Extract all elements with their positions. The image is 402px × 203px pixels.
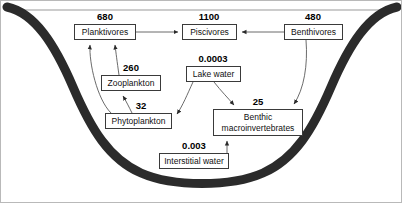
node-benthic-macroinvertebrates-label-line2: macroinvertebrates — [222, 123, 295, 134]
value-benthivores: 480 — [305, 11, 321, 22]
node-zooplankton[interactable]: Zooplankton — [101, 75, 161, 91]
value-interstitial-water: 0.003 — [182, 140, 206, 151]
node-phytoplankton[interactable]: Phytoplankton — [105, 113, 172, 129]
node-piscivores-label: Piscivores — [190, 27, 229, 37]
node-benthivores[interactable]: Benthivores — [284, 24, 343, 40]
node-interstitial-water-label: Interstitial water — [164, 156, 224, 166]
node-lake-water-label: Lake water — [193, 69, 235, 79]
value-lake-water: 0.0003 — [198, 53, 227, 64]
node-phytoplankton-label: Phytoplankton — [112, 116, 166, 126]
node-benthivores-label: Benthivores — [291, 27, 336, 37]
node-benthic-macroinvertebrates-label-line1: Benthic — [244, 112, 272, 123]
node-interstitial-water[interactable]: Interstitial water — [159, 153, 229, 169]
arrow-zooplankton-to-planktivores — [115, 45, 119, 75]
value-planktivores: 680 — [97, 11, 113, 22]
node-benthic-macroinvertebrates[interactable]: Benthic macroinvertebrates — [213, 109, 303, 136]
value-benthic-macroinvertebrates: 25 — [253, 96, 264, 107]
arrow-benthivores-to-benthic-macroinvertebrates — [294, 40, 307, 104]
value-piscivores: 1100 — [199, 11, 220, 22]
value-zooplankton: 260 — [123, 62, 139, 73]
lake-food-web-diagram: Planktivores 680 Piscivores 1100 Benthiv… — [0, 0, 402, 203]
arrow-lake-water-to-phytoplankton — [177, 82, 193, 114]
node-lake-water[interactable]: Lake water — [186, 66, 241, 82]
arrow-lake-water-to-benthic-macroinvertebrates — [214, 82, 234, 105]
value-phytoplankton: 32 — [136, 100, 147, 111]
arrow-phytoplankton-to-zooplankton — [123, 96, 132, 113]
node-planktivores[interactable]: Planktivores — [74, 24, 136, 40]
node-zooplankton-label: Zooplankton — [108, 78, 155, 88]
node-planktivores-label: Planktivores — [82, 27, 128, 37]
node-piscivores[interactable]: Piscivores — [182, 24, 237, 40]
